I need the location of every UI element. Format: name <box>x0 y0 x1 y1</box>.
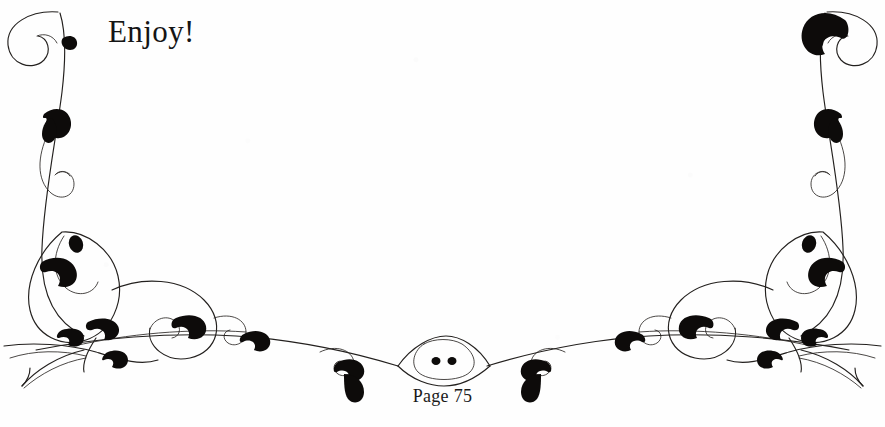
scanned-page: Enjoy! Page 75 <box>0 0 885 427</box>
calligraphic-flourish-ornament <box>0 0 885 427</box>
center-medallion <box>398 336 490 386</box>
flourish-left-half <box>4 12 398 403</box>
page-number-label: Page 75 <box>0 386 885 407</box>
flourish-right-half <box>487 12 881 403</box>
greeting-text: Enjoy! <box>108 16 195 49</box>
